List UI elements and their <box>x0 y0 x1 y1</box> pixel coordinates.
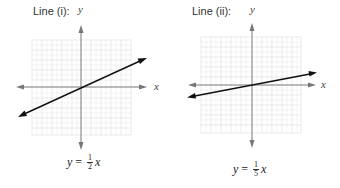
equation-lhs: y <box>67 155 72 170</box>
equation-equals: = <box>75 155 82 170</box>
equation-lhs: y <box>233 162 238 177</box>
y-axis-label-ii: y <box>250 3 255 15</box>
equation-ii: y = 1 5 x <box>233 161 266 178</box>
graph-panel-line-i: Line (i): y x y = 1 2 x <box>0 0 170 188</box>
x-axis-label-ii: x <box>321 78 326 90</box>
equation-fraction: 1 2 <box>87 154 93 171</box>
y-axis-label-i: y <box>78 3 83 15</box>
equation-fraction: 1 5 <box>253 161 259 178</box>
x-axis-label-i: x <box>154 80 159 92</box>
fraction-denominator: 5 <box>254 170 258 178</box>
equation-var: x <box>95 155 100 170</box>
equation-var: x <box>261 162 266 177</box>
graph-title-ii: Line (ii): <box>192 5 231 17</box>
equation-equals: = <box>241 162 248 177</box>
equation-i: y = 1 2 x <box>67 154 100 171</box>
graph-panel-line-ii: Line (ii): y x y = 1 5 x <box>170 0 340 188</box>
graph-title-i: Line (i): <box>33 5 70 17</box>
fraction-denominator: 2 <box>88 163 92 171</box>
